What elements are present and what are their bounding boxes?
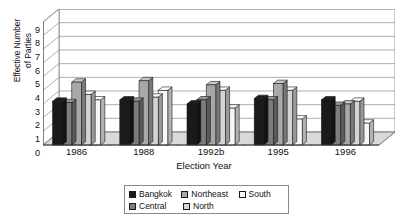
legend-label: Bangkok [139, 190, 172, 199]
legend-swatch-icon [239, 191, 246, 198]
x-axis-title: Election Year [0, 160, 408, 171]
legend-item-bangkok[interactable]: Bangkok [129, 190, 181, 199]
bar-chart: Effective Number of Parties 0123456789 1… [0, 0, 408, 219]
legend-item-northeast[interactable]: Northeast [181, 190, 238, 199]
y-axis-title-line-1: Effective Number [12, 0, 23, 110]
legend-label: Northeast [191, 190, 228, 199]
y-axis-tick-label: 1 [35, 135, 40, 144]
y-axis-tick-label: 2 [35, 121, 40, 130]
legend-swatch-icon [183, 203, 190, 210]
x-axis-tick-label: 1988 [114, 146, 174, 157]
y-axis-tick-label: 4 [35, 94, 40, 103]
legend-row: BangkokNortheastSouth [129, 188, 285, 200]
legend-item-south[interactable]: South [239, 190, 286, 199]
y-axis-tick-label: 8 [35, 39, 40, 48]
legend-label: South [249, 190, 271, 199]
x-axis-tick-label: 1996 [315, 146, 375, 157]
legend-swatch-icon [129, 191, 136, 198]
bar [254, 95, 268, 145]
chart-legend: BangkokNortheastSouthCentralNorth [124, 185, 289, 214]
plot-svg [43, 9, 395, 146]
y-axis-tick-label: 5 [35, 80, 40, 89]
x-axis-tick-labels: 198619881992b19951996 [43, 146, 395, 160]
y-axis-tick-label: 6 [35, 67, 40, 76]
legend-swatch-icon [129, 203, 136, 210]
y-axis-tick-labels: 0123456789 [28, 8, 40, 150]
y-axis-tick-label: 3 [35, 108, 40, 117]
x-axis-tick-label: 1992b [181, 146, 241, 157]
legend-item-north[interactable]: North [183, 202, 242, 211]
legend-label: Central [139, 202, 166, 211]
y-axis-tick-label: 9 [35, 26, 40, 35]
plot-area [43, 9, 395, 146]
bar [120, 97, 134, 146]
y-axis-tick-label: 0 [35, 149, 40, 158]
legend-row: CentralNorth [129, 200, 285, 212]
x-axis-tick-label: 1995 [248, 146, 308, 157]
bar [321, 97, 335, 146]
legend-label: North [193, 202, 214, 211]
legend-swatch-icon [181, 191, 188, 198]
bar [53, 98, 67, 145]
x-axis-tick-label: 1986 [47, 146, 107, 157]
y-axis-tick-label: 7 [35, 53, 40, 62]
bar [187, 101, 201, 145]
legend-item-central[interactable]: Central [129, 202, 183, 211]
